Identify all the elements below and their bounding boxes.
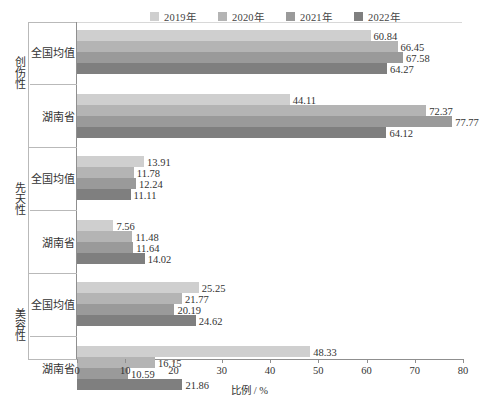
- bar-value-label: 25.25: [199, 282, 226, 293]
- bar-value-label: 64.27: [387, 63, 414, 74]
- bar-value-label: 21.77: [182, 293, 209, 304]
- bar-row: 11.64: [77, 242, 463, 253]
- y-axis-subcategory-label: 全国均值: [27, 296, 75, 312]
- bar-value-label: 20.19: [174, 304, 201, 315]
- legend-swatch-icon: [150, 12, 159, 21]
- bar-row: 64.12: [77, 127, 463, 138]
- bar[interactable]: [77, 127, 386, 138]
- bar-row: 24.62: [77, 315, 463, 326]
- legend-swatch-icon: [354, 12, 363, 21]
- bar-value-label: 60.84: [371, 30, 398, 41]
- bar[interactable]: [77, 315, 196, 326]
- bar-value-label: 11.64: [133, 242, 159, 253]
- bar-value-label: 11.48: [132, 231, 158, 242]
- bar-value-label: 14.02: [145, 253, 172, 264]
- bar-row: 13.91: [77, 156, 463, 167]
- bar[interactable]: [77, 220, 113, 231]
- bar-value-label: 10.59: [128, 368, 155, 379]
- y-axis-category-label: 创伤性: [4, 56, 28, 89]
- subcategory-separator: [30, 84, 77, 85]
- bar[interactable]: [77, 41, 398, 52]
- bar[interactable]: [77, 282, 199, 293]
- bar-row: 21.77: [77, 293, 463, 304]
- x-axis-tick-mark: [125, 359, 126, 363]
- bar[interactable]: [77, 253, 145, 264]
- bar[interactable]: [77, 94, 290, 105]
- bar-value-label: 64.12: [386, 127, 413, 138]
- bar[interactable]: [77, 105, 426, 116]
- y-axis-category-label: 美容性: [4, 308, 28, 341]
- bar[interactable]: [77, 52, 403, 63]
- bar-row: 11.48: [77, 231, 463, 242]
- bar-row: 60.84: [77, 30, 463, 41]
- bar-value-label: 48.33: [310, 346, 337, 357]
- x-axis-tick-label: 60: [361, 365, 372, 376]
- bar-row: 77.77: [77, 116, 463, 127]
- bar-value-label: 66.45: [398, 41, 425, 52]
- x-axis-tick-label: 70: [410, 365, 421, 376]
- bar-value-label: 44.11: [290, 94, 316, 105]
- bar[interactable]: [77, 167, 134, 178]
- y-axis-category-label: 先天性: [4, 182, 28, 215]
- x-axis-tick-label: 20: [168, 365, 179, 376]
- bar-row: 72.37: [77, 105, 463, 116]
- x-axis-tick-label: 50: [313, 365, 324, 376]
- legend-swatch-icon: [286, 12, 295, 21]
- x-axis-tick-label: 80: [458, 365, 469, 376]
- category-separator: [28, 273, 77, 274]
- x-axis-tick-mark: [174, 359, 175, 363]
- plot-area: 60.8466.4567.5864.2744.1172.3777.7764.12…: [77, 22, 463, 359]
- bar-value-label: 77.77: [452, 116, 479, 127]
- y-axis-subcategory-label: 湖南省: [27, 360, 75, 376]
- bar-value-label: 11.11: [131, 189, 157, 200]
- bar[interactable]: [77, 293, 182, 304]
- bar[interactable]: [77, 189, 131, 200]
- bar-value-label: 12.24: [136, 178, 163, 189]
- x-axis-tick-label: 30: [217, 365, 228, 376]
- bar[interactable]: [77, 156, 144, 167]
- y-axis-subcategory-label: 全国均值: [27, 44, 75, 60]
- x-axis-tick-mark: [318, 359, 319, 363]
- x-axis-tick-label: 40: [265, 365, 276, 376]
- y-axis-subcategory-label: 全国均值: [27, 170, 75, 186]
- x-axis-title: 比例 / %: [0, 382, 499, 397]
- bar-value-label: 24.62: [196, 315, 223, 326]
- bar-row: 20.19: [77, 304, 463, 315]
- bar[interactable]: [77, 242, 133, 253]
- category-separator: [28, 147, 77, 148]
- bar[interactable]: [77, 346, 310, 357]
- bar[interactable]: [77, 178, 136, 189]
- bar-value-label: 72.37: [426, 105, 453, 116]
- bar-row: 12.24: [77, 178, 463, 189]
- x-axis-tick-mark: [463, 359, 464, 363]
- bar-row: 44.11: [77, 94, 463, 105]
- bar-row: 25.25: [77, 282, 463, 293]
- bar-row: 7.56: [77, 220, 463, 231]
- subcategory-separator: [30, 210, 77, 211]
- bar-chart: 2019年2020年2021年2022年 全国均值湖南省创伤性全国均值湖南省先天…: [0, 0, 499, 409]
- bar-value-label: 11.78: [134, 167, 160, 178]
- x-axis-tick-mark: [222, 359, 223, 363]
- y-axis-subcategory-label: 湖南省: [27, 234, 75, 250]
- y-axis-subcategory-label: 湖南省: [27, 108, 75, 124]
- bar[interactable]: [77, 304, 174, 315]
- bar-value-label: 67.58: [403, 52, 430, 63]
- x-axis-tick-mark: [77, 359, 78, 363]
- subcategory-separator: [30, 336, 77, 337]
- bar[interactable]: [77, 30, 371, 41]
- bar-value-label: 13.91: [144, 156, 171, 167]
- bar-row: 11.78: [77, 167, 463, 178]
- x-axis-tick-mark: [415, 359, 416, 363]
- bar[interactable]: [77, 357, 155, 368]
- plot-top-rule-left: [28, 22, 77, 23]
- bar-row: 64.27: [77, 63, 463, 74]
- bar-row: 67.58: [77, 52, 463, 63]
- bar-value-label: 7.56: [113, 220, 134, 231]
- bar[interactable]: [77, 116, 452, 127]
- bar[interactable]: [77, 63, 387, 74]
- bar-row: 66.45: [77, 41, 463, 52]
- bar[interactable]: [77, 231, 132, 242]
- bar-row: 14.02: [77, 253, 463, 264]
- legend-swatch-icon: [218, 12, 227, 21]
- x-axis-tick-label: 0: [74, 365, 79, 376]
